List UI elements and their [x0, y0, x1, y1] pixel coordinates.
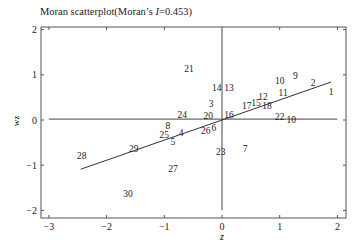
point-label: 1 — [329, 87, 334, 97]
y-tick-label: 0 — [32, 115, 37, 126]
point-label: 17 — [242, 101, 252, 111]
point-label: 22 — [275, 112, 285, 122]
point-label: 15 — [251, 98, 261, 108]
point-label: 14 — [212, 83, 222, 93]
y-tick-label: −1 — [26, 160, 37, 171]
point-label: 23 — [216, 147, 226, 157]
moran-scatterplot: −3−2−1012−2−1012 12345678910101112131415… — [0, 0, 363, 249]
plot-frame — [41, 27, 346, 218]
point-label: 16 — [224, 110, 234, 120]
point-label: 3 — [209, 99, 214, 109]
point-label: 27 — [168, 164, 178, 174]
y-tick-label: 2 — [32, 24, 37, 35]
x-tick-label: −2 — [101, 221, 112, 232]
point-labels: 1234567891010111213141516171820212223242… — [77, 64, 334, 198]
point-label: 29 — [129, 144, 139, 154]
x-tick-label: −1 — [159, 221, 170, 232]
point-label: 18 — [262, 101, 272, 111]
point-label: 26 — [201, 126, 211, 136]
point-label: 5 — [171, 137, 176, 147]
point-label: 7 — [243, 144, 248, 154]
point-label: 25 — [160, 130, 170, 140]
point-label: 20 — [203, 111, 213, 121]
point-label: 30 — [123, 189, 133, 199]
point-label: 21 — [184, 64, 194, 74]
y-tick-label: 1 — [32, 69, 37, 80]
y-axis-label: wz — [11, 116, 21, 127]
x-tick-label: 2 — [335, 221, 340, 232]
point-label: 9 — [293, 71, 298, 81]
point-label: 6 — [212, 123, 217, 133]
x-axis-label: z — [219, 231, 224, 242]
point-label: 2 — [311, 78, 316, 88]
point-label: 10 — [286, 115, 296, 125]
axis-ticks: −3−2−1012−2−1012 — [26, 24, 346, 232]
x-tick-label: −3 — [44, 221, 55, 232]
point-label: 24 — [177, 110, 187, 120]
point-label: 10 — [275, 76, 285, 86]
point-label: 4 — [179, 128, 184, 138]
y-tick-label: −2 — [26, 205, 37, 216]
x-tick-label: 1 — [277, 221, 282, 232]
point-label: 13 — [224, 83, 234, 93]
point-label: 11 — [279, 88, 288, 98]
point-label: 28 — [77, 151, 87, 161]
